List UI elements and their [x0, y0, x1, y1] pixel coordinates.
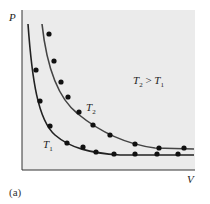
- data-point: [132, 151, 137, 156]
- data-point: [80, 144, 85, 149]
- data-point: [76, 109, 81, 114]
- data-point: [175, 151, 180, 156]
- data-point: [58, 79, 63, 84]
- panel-caption: (a): [9, 186, 21, 198]
- data-point: [33, 67, 38, 72]
- data-point: [156, 145, 161, 150]
- data-point: [64, 140, 69, 145]
- data-point: [47, 123, 52, 128]
- data-point: [65, 94, 70, 99]
- data-point: [46, 31, 51, 36]
- data-point: [181, 145, 186, 150]
- data-point: [154, 151, 159, 156]
- data-point: [132, 141, 137, 146]
- data-point: [37, 98, 42, 103]
- data-point: [51, 58, 56, 63]
- y-axis-label: P: [8, 11, 16, 23]
- data-point: [93, 149, 98, 154]
- data-point: [107, 132, 112, 137]
- x-axis-label: V: [187, 173, 195, 185]
- pv-isotherm-chart: P V T2 T1 T2 > T1: [0, 0, 210, 204]
- data-point: [90, 122, 95, 127]
- data-point: [111, 151, 116, 156]
